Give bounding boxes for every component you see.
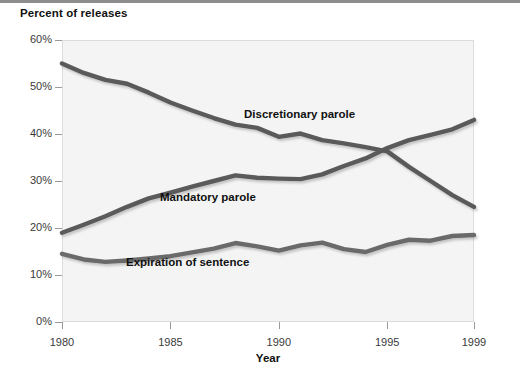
x-tick-mark bbox=[279, 322, 280, 329]
x-tick-label: 1985 bbox=[140, 336, 200, 348]
y-tick-mark bbox=[55, 87, 62, 88]
series-label-expiration-of-sentence: Expiration of sentence bbox=[126, 256, 249, 268]
y-tick-mark bbox=[55, 322, 62, 323]
x-tick-mark bbox=[170, 322, 171, 329]
x-tick-label: 1990 bbox=[249, 336, 309, 348]
series-line bbox=[62, 64, 474, 207]
top-divider-rule bbox=[0, 0, 520, 3]
y-axis-title: Percent of releases bbox=[20, 7, 127, 19]
y-tick-mark bbox=[55, 134, 62, 135]
y-tick-mark bbox=[55, 40, 62, 41]
y-tick-label: 0% bbox=[8, 315, 52, 327]
y-tick-label: 30% bbox=[8, 174, 52, 186]
series-lines-group bbox=[62, 40, 474, 322]
y-tick-label: 40% bbox=[8, 127, 52, 139]
x-tick-label: 1995 bbox=[357, 336, 417, 348]
series-line bbox=[62, 120, 474, 233]
y-tick-label: 10% bbox=[8, 268, 52, 280]
x-tick-mark bbox=[62, 322, 63, 329]
y-tick-mark bbox=[55, 275, 62, 276]
series-label-mandatory-parole: Mandatory parole bbox=[160, 191, 256, 203]
line-chart: Percent of releases 0%10%20%30%40%50%60%… bbox=[0, 0, 520, 387]
x-tick-label: 1999 bbox=[444, 336, 504, 348]
y-tick-label: 60% bbox=[8, 33, 52, 45]
x-tick-mark bbox=[474, 322, 475, 329]
y-tick-mark bbox=[55, 228, 62, 229]
y-tick-label: 20% bbox=[8, 221, 52, 233]
x-axis-title: Year bbox=[62, 352, 474, 364]
series-label-discretionary-parole: Discretionary parole bbox=[244, 108, 355, 120]
x-tick-label: 1980 bbox=[32, 336, 92, 348]
x-tick-mark bbox=[387, 322, 388, 329]
y-tick-mark bbox=[55, 181, 62, 182]
series-line bbox=[62, 235, 474, 262]
y-tick-label: 50% bbox=[8, 80, 52, 92]
